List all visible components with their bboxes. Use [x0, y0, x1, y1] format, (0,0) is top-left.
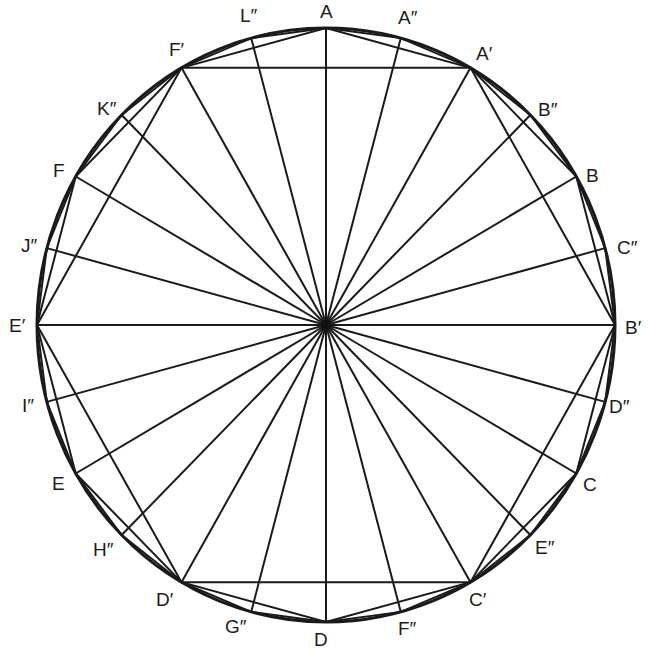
vertex-label: G″ — [225, 617, 247, 636]
vertex-label: A″ — [398, 8, 417, 27]
vertex-label: C — [583, 475, 597, 494]
radius-line — [122, 115, 326, 325]
radius-line — [326, 325, 605, 402]
vertex-label: A — [320, 2, 333, 21]
radius-line — [76, 177, 326, 326]
vertex-label: D″ — [609, 397, 629, 416]
center-point — [321, 320, 331, 330]
vertex-label: B″ — [538, 100, 557, 119]
vertex-label: D — [314, 630, 328, 649]
radius-line — [182, 325, 327, 582]
radius-line — [182, 68, 327, 325]
vertex-label: L″ — [240, 6, 257, 25]
vertex-label: D′ — [156, 590, 173, 609]
radius-line — [122, 325, 326, 535]
vertex-label: B′ — [625, 318, 641, 337]
vertex-label: F″ — [398, 619, 416, 638]
radius-line — [47, 325, 326, 402]
vertex-label: E — [52, 474, 65, 493]
vertex-label: C′ — [469, 590, 486, 609]
vertex-label: B — [586, 166, 599, 185]
vertex-label: E″ — [535, 538, 554, 557]
vertex-label: J″ — [21, 236, 37, 255]
radius-line — [326, 325, 471, 582]
vertex-label: F′ — [169, 40, 184, 59]
vertex-label: K″ — [97, 99, 116, 118]
vertex-label: C″ — [617, 238, 637, 257]
radius-line — [326, 38, 401, 325]
vertex-label: A′ — [476, 44, 492, 63]
radius-line — [326, 115, 530, 325]
radius-line — [326, 325, 530, 535]
radius-line — [47, 248, 326, 325]
vertex-label: E′ — [9, 316, 25, 335]
radius-line — [76, 325, 326, 474]
radius-line — [251, 325, 326, 612]
radius-line — [326, 325, 401, 612]
vertex-label: H″ — [93, 540, 113, 559]
radius-line — [326, 177, 576, 326]
vertex-label: I″ — [22, 396, 34, 415]
radius-line — [326, 68, 471, 325]
vertex-label: F — [53, 161, 65, 180]
radius-line — [326, 248, 605, 325]
radius-line — [326, 325, 576, 474]
radius-line — [251, 38, 326, 325]
